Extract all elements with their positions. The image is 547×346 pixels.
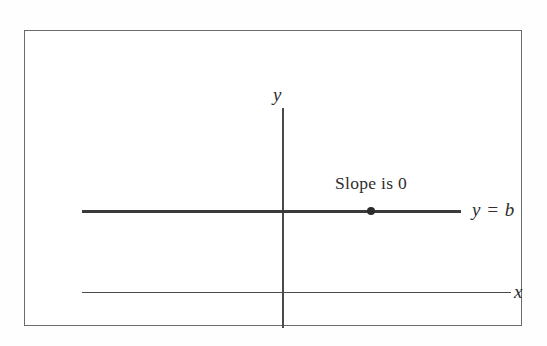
y-axis-line (282, 108, 284, 328)
figure-container: y x y = b Slope is 0 (0, 0, 547, 346)
x-axis-line (82, 292, 511, 294)
horizontal-line-y-equals-b (82, 210, 461, 213)
line-equation-label: y = b (472, 200, 515, 219)
y-axis-label: y (273, 85, 281, 104)
x-axis-label: x (514, 282, 522, 301)
point-marker-on-line (367, 207, 375, 215)
figure-frame: y x y = b Slope is 0 (24, 30, 522, 326)
slope-annotation-label: Slope is 0 (335, 175, 407, 193)
